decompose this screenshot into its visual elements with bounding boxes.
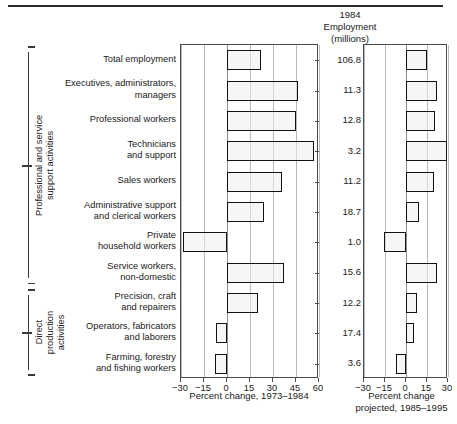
employment-column-header: 1984 Employment (millions) — [300, 9, 400, 46]
bar-right-row-1 — [406, 81, 437, 101]
bar-right-row-6 — [384, 232, 406, 252]
bracket-label-direct-production: Direct production activities — [34, 289, 72, 375]
employment-value-5: 18.7 — [318, 206, 361, 217]
axis-tick-right-0 — [405, 378, 406, 382]
axis-tick-left-0 — [226, 378, 227, 382]
plot-right-percent-change-projected-1985-1995 — [363, 44, 447, 378]
axis-title-left: Percent change, 1973–1984 — [180, 390, 318, 402]
employment-value-9: 17.4 — [318, 327, 361, 338]
bar-right-row-9 — [406, 323, 414, 343]
employment-value-2: 12.8 — [318, 114, 361, 125]
bar-right-row-2 — [406, 111, 435, 131]
axis-tick-right--30 — [363, 378, 364, 382]
employment-value-1: 11.3 — [318, 84, 361, 95]
bar-right-row-0 — [406, 50, 427, 70]
bar-right-row-8 — [406, 293, 417, 313]
bar-left-row-7 — [227, 263, 284, 283]
bar-left-row-5 — [227, 202, 264, 222]
bar-right-row-5 — [406, 202, 419, 222]
axis-tick-left--30 — [180, 378, 181, 382]
axis-tick-right-30 — [447, 378, 448, 382]
gridline-right--30 — [364, 45, 365, 377]
employment-value-6: 1.0 — [318, 236, 361, 247]
gridline-left--15 — [204, 45, 205, 377]
employment-value-0: 106.8 — [318, 54, 361, 65]
employment-value-3: 3.2 — [318, 145, 361, 156]
bar-left-row-4 — [227, 172, 282, 192]
bar-left-row-9 — [216, 323, 227, 343]
axis-title-right: Percent change projected, 1985–1995 — [352, 390, 451, 414]
bar-right-row-4 — [406, 172, 434, 192]
axis-tick-right-15 — [426, 378, 427, 382]
employment-value-10: 3.6 — [318, 357, 361, 368]
axis-tick-left-60 — [318, 378, 319, 382]
bar-left-row-2 — [227, 111, 296, 131]
gridline-left--30 — [181, 45, 182, 377]
axis-tick-left--15 — [203, 378, 204, 382]
bracket-label-professional-and-service: Professional and service support activit… — [34, 46, 60, 284]
gridline-right--15 — [385, 45, 386, 377]
header-line-year: 1984 — [300, 9, 400, 21]
bracket-arm — [22, 332, 32, 333]
header-line-employment: Employment — [300, 21, 400, 33]
axis-title-right-line2: projected, 1985–1995 — [352, 402, 451, 414]
top-rule — [8, 5, 443, 7]
bracket-arm — [22, 165, 32, 166]
axis-tick-right--15 — [384, 378, 385, 382]
axis-tick-left-15 — [249, 378, 250, 382]
bar-right-row-3 — [406, 141, 447, 161]
gridline-right-30 — [448, 45, 449, 377]
employment-value-8: 12.2 — [318, 297, 361, 308]
bar-left-row-10 — [215, 354, 227, 374]
axis-tick-left-45 — [295, 378, 296, 382]
bar-right-row-10 — [396, 354, 406, 374]
employment-value-7: 15.6 — [318, 266, 361, 277]
bar-right-row-7 — [406, 263, 437, 283]
bar-left-row-3 — [227, 141, 314, 161]
employment-value-4: 11.2 — [318, 175, 361, 186]
axis-title-right-line1: Percent change — [352, 390, 451, 402]
bar-left-row-1 — [227, 81, 298, 101]
bar-left-row-6 — [183, 232, 227, 252]
bar-left-row-8 — [227, 293, 258, 313]
employment-value-column: 106.811.312.83.211.218.71.015.612.217.43… — [318, 44, 363, 378]
plot-left-percent-change-1973-1984 — [180, 44, 318, 378]
axis-tick-left-30 — [272, 378, 273, 382]
bar-left-row-0 — [227, 50, 261, 70]
